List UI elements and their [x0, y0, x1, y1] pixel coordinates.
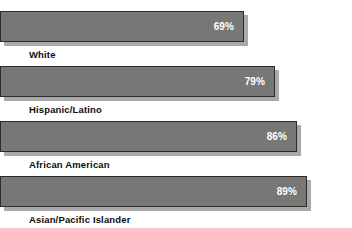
bar-rect[interactable]: 79%	[0, 66, 275, 97]
bar-value-label: 79%	[245, 77, 274, 87]
bar-group: 79% Hispanic/Latino	[0, 66, 352, 97]
bar-track: 89%	[0, 176, 352, 207]
bar-category-label: Hispanic/Latino	[29, 105, 102, 115]
bar-track: 79%	[0, 66, 352, 97]
bar-value-label: 69%	[214, 22, 243, 32]
bar-rect[interactable]: 69%	[0, 11, 244, 42]
horizontal-bar-chart: 69% White 79% Hispanic/Latino 86% Africa…	[0, 0, 352, 228]
bar-rect[interactable]: 86%	[0, 121, 297, 152]
bar-group: 86% African American	[0, 121, 352, 152]
bar-rect[interactable]: 89%	[0, 176, 307, 207]
bar-category-label: Asian/Pacific Islander	[29, 215, 131, 225]
bar-track: 69%	[0, 11, 352, 42]
bar-value-label: 86%	[267, 132, 296, 142]
bar-track: 86%	[0, 121, 352, 152]
bar-category-label: African American	[29, 160, 110, 170]
bar-group: 89% Asian/Pacific Islander	[0, 176, 352, 207]
bar-category-label: White	[29, 50, 56, 60]
bar-value-label: 89%	[277, 187, 306, 197]
bar-group: 69% White	[0, 11, 352, 42]
